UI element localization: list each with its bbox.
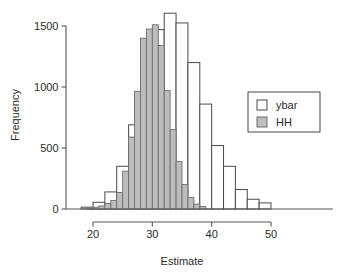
histogram-figure: 050010001500 20304050 Frequency Estimate… (0, 0, 343, 275)
bar-hh (188, 197, 194, 209)
bar-ybar (235, 189, 247, 209)
bar-hh (170, 130, 176, 209)
legend-swatch-ybar (257, 100, 267, 110)
x-axis-tick-label: 30 (146, 228, 158, 240)
bar-hh (129, 137, 135, 209)
x-axis-tick-label: 50 (265, 228, 277, 240)
x-axis: 20304050 (66, 209, 333, 240)
y-axis-tick-label: 1000 (34, 81, 58, 93)
legend-swatch-hh (257, 117, 267, 127)
x-axis-tick-label: 20 (87, 228, 99, 240)
bar-ybar (224, 166, 236, 209)
bar-ybar (188, 63, 200, 209)
bar-hh (164, 91, 170, 209)
bar-hh (105, 204, 111, 209)
y-axis: 050010001500 (34, 20, 66, 215)
bar-ybar (212, 146, 224, 209)
legend-label-hh: HH (276, 116, 292, 128)
bar-hh (152, 25, 158, 209)
bar-hh (123, 171, 129, 209)
bar-hh (117, 193, 123, 209)
y-axis-tick-label: 500 (40, 142, 58, 154)
y-axis-title: Frequency (9, 89, 21, 141)
bar-hh (140, 38, 146, 209)
y-axis-tick-label: 1500 (34, 20, 58, 32)
chart-canvas: 050010001500 20304050 Frequency Estimate… (0, 0, 343, 275)
bar-hh (182, 185, 188, 209)
bar-hh (176, 161, 182, 209)
x-axis-tick-label: 40 (206, 228, 218, 240)
bar-hh (135, 91, 141, 209)
bar-hh (158, 46, 164, 209)
bar-hh (111, 200, 117, 209)
bar-hh (146, 29, 152, 209)
bar-ybar (259, 203, 271, 209)
bar-ybar (247, 199, 259, 209)
legend-label-ybar: ybar (276, 99, 298, 111)
y-axis-tick-label: 0 (52, 203, 58, 215)
x-axis-title: Estimate (161, 255, 204, 267)
chart-legend: ybarHH (248, 92, 320, 132)
bar-ybar (200, 104, 212, 209)
bar-hh (194, 204, 200, 209)
